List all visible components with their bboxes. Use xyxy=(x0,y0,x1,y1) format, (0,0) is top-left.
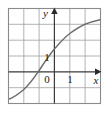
x-tick-label-1: 1 xyxy=(67,73,73,85)
graph-canvas: y x 0 1 1 xyxy=(0,0,110,114)
y-axis-label: y xyxy=(42,7,48,19)
origin-tick-label: 0 xyxy=(44,73,50,85)
y-tick-label-1: 1 xyxy=(44,51,50,63)
x-axis-label: x xyxy=(93,74,99,86)
sigmoid-curve-figure: y x 0 1 1 xyxy=(0,0,110,114)
